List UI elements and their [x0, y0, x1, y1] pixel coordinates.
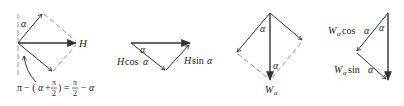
parallelogram-dash-left [238, 54, 268, 78]
svg-text:−: − [81, 82, 87, 93]
alpha-label: α [140, 44, 146, 55]
lower-component-arrow [18, 43, 52, 71]
svg-text:α: α [274, 89, 278, 97]
Hsin-alpha-label: H sin α [183, 55, 213, 66]
svg-text:H: H [116, 56, 125, 67]
angle-equation: π − ( α + π 2 ) = π 2 − α [17, 78, 95, 98]
svg-text:− (: − ( [24, 82, 36, 94]
alpha-label-bottom: α [273, 60, 279, 71]
W-alpha-label: W α [265, 84, 278, 97]
Wsin-alpha-label: W α sin α [334, 64, 374, 77]
svg-text:α: α [207, 55, 213, 66]
svg-text:α: α [38, 82, 44, 93]
svg-text:α: α [143, 56, 149, 67]
H-label: H [78, 37, 88, 49]
svg-text:cos: cos [342, 25, 355, 36]
panel-3-resolution-of-W: α α W α [237, 13, 302, 97]
svg-text:π: π [52, 78, 56, 87]
panel-2-H-triangle: α H cos α H sin α [116, 43, 213, 70]
Wcos-alpha-label: W α cos α [328, 25, 370, 38]
svg-text:sin: sin [348, 64, 360, 75]
alpha-label: α [21, 18, 27, 29]
svg-text:cos: cos [125, 56, 138, 67]
svg-text:α: α [337, 30, 341, 38]
alpha-label-top: α [260, 23, 266, 34]
svg-text:α: α [343, 69, 347, 77]
force-diagram: α H π − ( α + π 2 ) = π 2 − α α H cos α [0, 0, 404, 106]
right-component-arrow [270, 13, 302, 40]
svg-text:π: π [73, 78, 77, 87]
panel-1-resolution-of-H: α H π − ( α + π 2 ) = π 2 − α [17, 14, 95, 98]
svg-text:+: + [45, 82, 51, 93]
curved-angle-arrow [24, 56, 36, 82]
svg-text:2: 2 [73, 89, 77, 98]
svg-text:sin: sin [192, 55, 204, 66]
svg-text:α: α [364, 25, 370, 36]
Hcos-alpha-label: H cos α [116, 56, 149, 67]
svg-text:H: H [183, 55, 192, 66]
svg-text:α: α [89, 82, 95, 93]
panel-4-W-triangle: α W α cos α W α sin α [328, 13, 388, 80]
svg-text:α: α [368, 64, 374, 75]
svg-text:) =: ) = [58, 82, 70, 94]
alpha-label: α [379, 22, 385, 33]
svg-text:2: 2 [52, 89, 56, 98]
parallelogram-dash-upper [44, 14, 76, 41]
svg-text:π: π [17, 82, 22, 93]
parallelogram-dash-lower [53, 45, 76, 71]
